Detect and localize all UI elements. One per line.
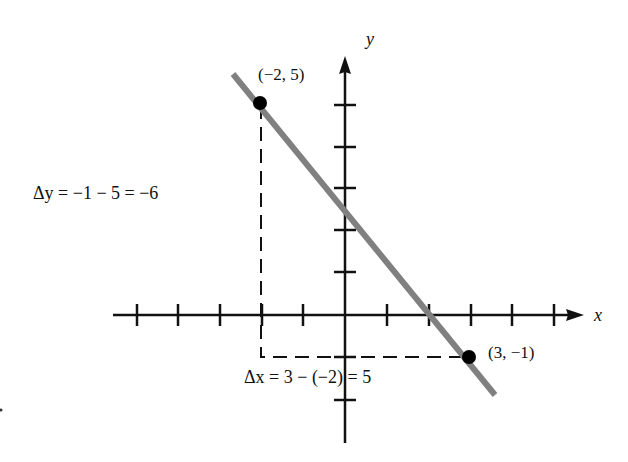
delta-y-annotation: Δy = −1 − 5 = −6 bbox=[33, 184, 158, 202]
scan-speck bbox=[0, 409, 3, 412]
x-axis-arrow-icon bbox=[566, 309, 584, 321]
x-axis-label: x bbox=[594, 306, 602, 324]
coordinate-plane bbox=[0, 0, 628, 462]
point-a-marker bbox=[253, 96, 267, 110]
point-b-label: (3, −1) bbox=[488, 344, 534, 361]
point-b-marker bbox=[462, 350, 476, 364]
point-a-label: (−2, 5) bbox=[258, 66, 304, 83]
y-axis-arrow-icon bbox=[339, 56, 351, 74]
graphed-line bbox=[233, 74, 495, 395]
y-axis-label: y bbox=[366, 30, 374, 48]
delta-x-annotation: Δx = 3 − (−2) = 5 bbox=[244, 368, 371, 386]
